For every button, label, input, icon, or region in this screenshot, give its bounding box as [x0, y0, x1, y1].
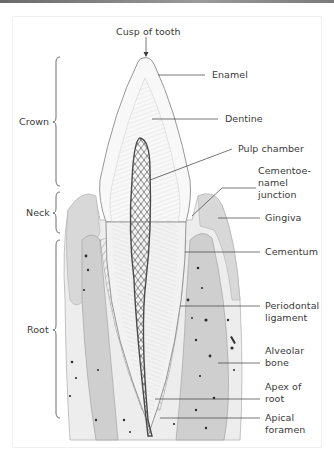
crown-bracket	[53, 57, 60, 186]
neck-bracket	[53, 192, 60, 233]
label-apical-foramen: Apical foramen	[265, 412, 305, 436]
label-pulp-chamber: Pulp chamber	[238, 143, 304, 155]
label-alveolar-bone: Alveolar bone	[265, 345, 304, 369]
label-periodontal-ligament: Periodontal ligament	[265, 300, 319, 324]
label-dentine: Dentine	[225, 113, 263, 125]
label-cementum: Cementum	[265, 246, 318, 258]
label-crown: Crown	[19, 116, 49, 128]
label-enamel: Enamel	[212, 69, 248, 81]
label-apex-of-root: Apex of root	[265, 381, 301, 405]
label-neck: Neck	[26, 207, 50, 219]
label-root: Root	[27, 324, 49, 336]
root-bracket	[53, 240, 60, 418]
label-cusp-of-tooth: Cusp of tooth	[116, 26, 181, 38]
label-cementoenamel-junction: Cementoe- namel junction	[258, 165, 311, 201]
label-gingiva: Gingiva	[265, 212, 302, 224]
region-brackets	[53, 57, 60, 418]
